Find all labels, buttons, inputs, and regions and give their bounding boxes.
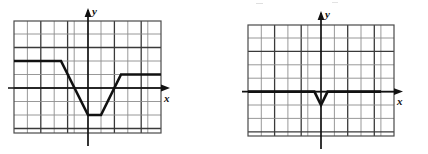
figure-pair-container: y x [0, 0, 428, 154]
right-grid-major-vertical-lines [275, 25, 375, 136]
right-y-axis-label: y [323, 8, 330, 20]
left-y-axis-arrowhead [85, 8, 92, 17]
right-smudge-artifacts [256, 2, 338, 4]
left-x-axis-label: x [163, 92, 170, 104]
left-coordinate-graph: y x [0, 0, 214, 154]
right-graph-canvas: y x [214, 0, 428, 154]
right-coordinate-graph: y x [214, 0, 428, 154]
left-graph-canvas: y x [0, 0, 214, 154]
right-y-axis-arrowhead [318, 11, 325, 20]
left-y-axis-label: y [90, 5, 97, 17]
left-x-axis-arrowhead [161, 85, 170, 92]
right-x-axis-arrowhead [394, 88, 403, 95]
right-x-axis-label: x [396, 95, 403, 107]
